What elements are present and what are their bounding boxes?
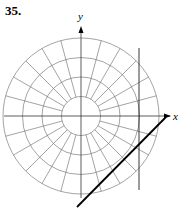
y-axis-arrow-icon [79,26,84,33]
axes [4,30,170,198]
x-axis-label: x [172,110,178,122]
grid-ray [6,96,63,111]
grid-ray [100,121,157,136]
grid-ray [100,96,157,111]
y-axis-label: y [77,10,83,22]
grid-ray [86,135,101,192]
grid-ray [61,135,76,192]
diagonal-line [77,117,166,207]
grid-ray [6,121,63,136]
grid-ray [86,41,101,98]
grid-ray [61,41,76,98]
polar-grid-diagram: x y [0,0,182,211]
